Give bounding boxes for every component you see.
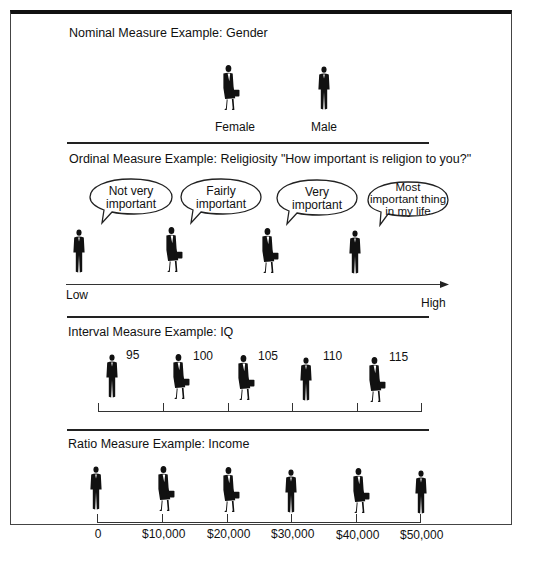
man-figure-icon	[88, 464, 104, 512]
tick	[228, 403, 229, 412]
iq-label: 100	[193, 349, 213, 363]
axis-low-label: Low	[66, 288, 88, 302]
speech-bubble: Very important	[275, 178, 359, 226]
tick	[162, 514, 163, 523]
iq-label: 105	[258, 349, 278, 363]
man-figure-icon	[104, 352, 120, 400]
man-figure-icon	[413, 468, 429, 516]
tick	[291, 514, 292, 523]
speech-bubble: Fairly important	[179, 177, 263, 225]
woman-figure-icon	[350, 465, 372, 517]
interval-title: Interval Measure Example: IQ	[68, 325, 233, 339]
ordinal-title: Ordinal Measure Example: Religiosity "Ho…	[69, 152, 471, 166]
section-divider	[67, 429, 429, 431]
income-label: $20,000	[207, 527, 249, 541]
nominal-label-male: Male	[304, 120, 344, 134]
iq-label: 95	[126, 348, 139, 362]
section-divider	[67, 142, 429, 144]
man-figure-icon	[71, 228, 87, 274]
ratio-axis	[97, 522, 421, 523]
bubble-text: Very important	[275, 178, 359, 226]
tick	[357, 403, 358, 412]
bubble-text: Most important thing in my life	[366, 180, 450, 226]
ordinal-axis	[66, 284, 444, 285]
bubble-text: Not very important	[88, 177, 174, 225]
arrowhead-icon	[440, 280, 450, 290]
interval-axis	[98, 411, 422, 412]
woman-figure-icon	[163, 224, 185, 276]
woman-figure-icon	[235, 352, 257, 404]
speech-bubble: Most important thing in my life	[366, 180, 450, 226]
woman-figure-icon	[259, 225, 281, 277]
tick	[163, 403, 164, 412]
income-label: 0	[92, 527, 104, 541]
tick	[227, 514, 228, 523]
bubble-text: Fairly important	[179, 177, 263, 225]
income-label: $40,000	[336, 528, 378, 542]
woman-figure-icon	[220, 60, 242, 116]
man-figure-icon	[283, 467, 299, 515]
speech-bubble: Not very important	[88, 177, 174, 225]
ratio-title: Ratio Measure Example: Income	[68, 437, 249, 451]
man-figure-icon	[347, 229, 363, 275]
man-figure-icon	[298, 355, 314, 403]
axis-high-label: High	[421, 296, 446, 310]
tick	[97, 514, 98, 523]
income-label: $10,000	[142, 527, 184, 541]
tick	[421, 403, 422, 412]
man-figure-icon	[316, 63, 332, 113]
iq-label: 110	[323, 349, 342, 363]
nominal-label-female: Female	[210, 120, 260, 134]
tick	[98, 403, 99, 412]
woman-figure-icon	[155, 463, 177, 515]
woman-figure-icon	[170, 351, 192, 403]
nominal-title: Nominal Measure Example: Gender	[69, 26, 268, 40]
section-divider	[67, 316, 429, 318]
woman-figure-icon	[220, 464, 242, 516]
tick	[292, 403, 293, 412]
woman-figure-icon	[366, 354, 388, 406]
iq-label: 115	[389, 350, 408, 364]
tick	[420, 514, 421, 523]
income-label: $30,000	[271, 527, 313, 541]
income-label: $50,000	[400, 528, 442, 542]
tick	[356, 514, 357, 523]
